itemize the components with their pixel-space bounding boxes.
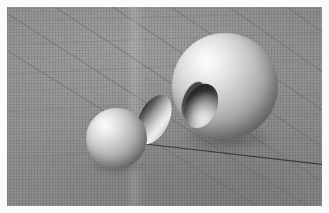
matte-border-bottom bbox=[0, 206, 329, 213]
sphere-small[interactable] bbox=[86, 108, 147, 169]
matte-border-right bbox=[322, 0, 329, 213]
matte-border-left bbox=[0, 0, 7, 213]
matte-border-top bbox=[0, 0, 329, 7]
grid-axis-line bbox=[137, 143, 322, 165]
viewport-3d[interactable] bbox=[7, 7, 322, 206]
render-viewport-stage bbox=[0, 0, 329, 213]
